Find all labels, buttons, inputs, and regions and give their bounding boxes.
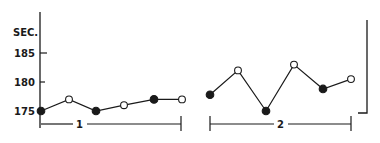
series-layer [37, 61, 354, 115]
group-1-label: 1 [76, 119, 83, 130]
open-point-marker [179, 96, 186, 103]
filled-point-marker [262, 107, 270, 115]
right-bracket [358, 20, 367, 113]
chart: SEC. 185 180 175 1 2 [0, 0, 380, 143]
group-2-label: 2 [277, 119, 284, 130]
y-axis-unit-label: SEC. [13, 27, 38, 38]
y-tick-label-175: 175 [14, 106, 35, 117]
group-1-line [41, 99, 182, 111]
filled-point-marker [37, 107, 45, 115]
group-2-line [210, 65, 351, 111]
open-point-marker [235, 67, 242, 74]
open-point-marker [348, 76, 355, 83]
open-point-marker [291, 61, 298, 68]
filled-point-marker [150, 96, 158, 104]
y-tick-label-180: 180 [14, 77, 35, 88]
open-point-marker [66, 96, 73, 103]
filled-point-marker [319, 85, 327, 93]
group-1-bracket [41, 116, 181, 131]
open-point-marker [121, 102, 128, 109]
filled-point-marker [92, 107, 100, 115]
filled-point-marker [206, 91, 214, 99]
y-tick-label-185: 185 [14, 48, 35, 59]
